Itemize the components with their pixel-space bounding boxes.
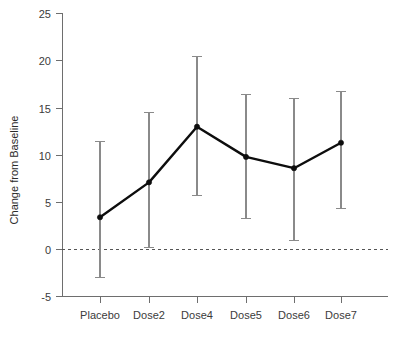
x-tick-label-dose5: Dose5 <box>230 309 262 321</box>
data-point-dose7 <box>338 140 343 145</box>
y-tick-label-0: 0 <box>45 244 51 256</box>
chart-container: 25 20 15 10 5 0 -5 Change from Baseline … <box>0 0 399 338</box>
y-axis-title: Change from Baseline <box>8 116 20 225</box>
y-tick-label-15: 15 <box>39 103 51 115</box>
data-point-placebo <box>97 215 102 220</box>
data-point-dose4 <box>194 124 199 129</box>
x-tick-label-dose7: Dose7 <box>325 309 357 321</box>
x-tick-label-placebo: Placebo <box>80 309 120 321</box>
y-tick-label-5: 5 <box>45 197 51 209</box>
line-chart-with-error-bars: 25 20 15 10 5 0 -5 Change from Baseline … <box>0 0 399 338</box>
x-tick-label-dose4: Dose4 <box>181 309 213 321</box>
series-line <box>100 127 341 218</box>
y-tick-label-10: 10 <box>39 150 51 162</box>
y-tick-label-minus5: -5 <box>41 291 51 303</box>
x-tick-label-dose2: Dose2 <box>133 309 165 321</box>
data-point-dose2 <box>146 180 151 185</box>
y-tick-label-20: 20 <box>39 55 51 67</box>
y-axis: 25 20 15 10 5 0 -5 Change from Baseline <box>8 8 62 303</box>
x-tick-label-dose6: Dose6 <box>278 309 310 321</box>
plot-layer <box>95 57 346 278</box>
data-point-dose6 <box>291 166 296 171</box>
data-point-dose5 <box>243 154 248 159</box>
x-axis: Placebo Dose2 Dose4 Dose5 Dose6 Dose7 <box>62 297 388 322</box>
y-tick-label-25: 25 <box>39 8 51 20</box>
